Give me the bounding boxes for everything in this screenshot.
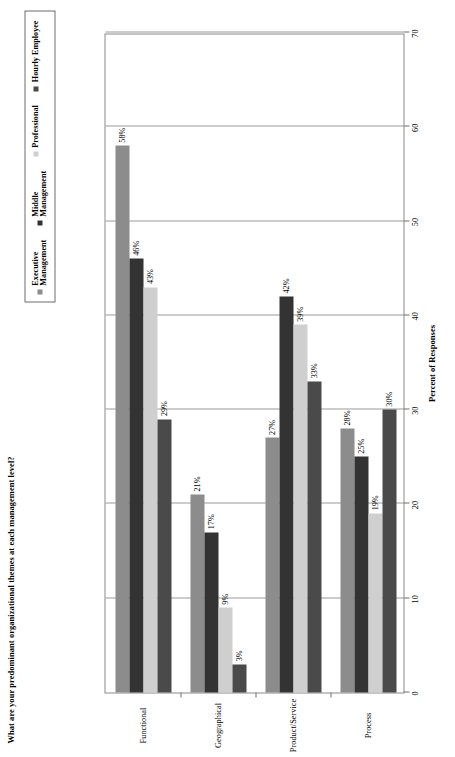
bar-value-label: 9%: [220, 593, 229, 607]
category-tick: [330, 692, 331, 697]
bar: [368, 513, 382, 692]
bar-row: 3%: [232, 34, 246, 692]
bar-row: 46%: [129, 34, 143, 692]
bar-row: 29%: [157, 34, 171, 692]
bar-row: 17%: [204, 34, 218, 692]
gridline: [105, 31, 403, 32]
legend-swatch-icon: [33, 151, 38, 156]
bar: [218, 607, 232, 692]
axis-tick-label: 20: [410, 500, 419, 508]
bar: [354, 456, 368, 692]
bar: [265, 437, 279, 692]
legend-item-label: Hourly Employee: [31, 20, 39, 82]
bar-row: 9%: [218, 34, 232, 692]
bar-value-label: 3%: [234, 650, 243, 664]
bar: [157, 419, 171, 692]
legend-item-label: Executive Management: [31, 239, 48, 285]
category-tick: [255, 692, 256, 697]
bar-value-label: 43%: [145, 269, 154, 287]
chart-page: What are your predominant organizational…: [0, 0, 455, 757]
bar-row: 39%: [293, 34, 307, 692]
bar-row: 58%: [115, 34, 129, 692]
bar-value-label: 27%: [267, 419, 276, 437]
bar: [190, 494, 204, 692]
bar: [204, 532, 218, 692]
x-axis-title: Percent of Responses: [426, 33, 436, 693]
bar: [382, 409, 396, 692]
axis-tick-label: 60: [410, 123, 419, 131]
bar: [232, 664, 246, 692]
category-tick: [180, 692, 181, 697]
bar-row: 25%: [354, 34, 368, 692]
legend-swatch-icon: [37, 289, 42, 294]
bar: [143, 287, 157, 692]
bar: [293, 324, 307, 692]
axis-tick-label: 30: [410, 406, 419, 414]
bar-group: 21%17%9%3%Geographical: [180, 34, 255, 692]
category-axis-label: Functional: [138, 696, 147, 754]
bar-value-label: 25%: [356, 438, 365, 456]
legend-item-label: Professional: [31, 105, 39, 148]
axis-tick-label: 70: [410, 29, 419, 37]
bar-value-label: 46%: [131, 240, 140, 258]
legend-swatch-icon: [33, 86, 38, 91]
bar-value-label: 29%: [159, 401, 168, 419]
chart-legend: Executive ManagementMiddle ManagementPro…: [24, 10, 55, 302]
bar-row: 19%: [368, 34, 382, 692]
bar-row: 30%: [382, 34, 396, 692]
bar-row: 42%: [279, 34, 293, 692]
axis-tick-label: 10: [410, 595, 419, 603]
chart-figure: What are your predominant organizational…: [0, 0, 455, 757]
bar-value-label: 28%: [342, 410, 351, 428]
plot-area: 58%46%43%29%Functional21%17%9%3%Geograph…: [104, 33, 404, 693]
bar-group: 28%25%19%30%Process: [330, 34, 405, 692]
bar-value-label: 21%: [192, 476, 201, 494]
bar-group: 27%42%39%33%Product/Service: [255, 34, 330, 692]
bar-row: 27%: [265, 34, 279, 692]
bar: [129, 258, 143, 692]
bar: [307, 381, 321, 692]
legend-item: Hourly Employee: [31, 20, 39, 91]
bar-row: 33%: [307, 34, 321, 692]
axis-tick: [403, 31, 409, 32]
axis-tick-label: 50: [410, 217, 419, 225]
bar-row: 43%: [143, 34, 157, 692]
legend-item: Professional: [31, 105, 39, 157]
plot-frame: 58%46%43%29%Functional21%17%9%3%Geograph…: [104, 33, 404, 693]
bar-value-label: 58%: [117, 127, 126, 145]
bar-value-label: 42%: [281, 278, 290, 296]
legend-item: Executive Management: [31, 239, 48, 294]
legend-item: Middle Management: [31, 170, 48, 225]
category-axis-label: Geographical: [213, 696, 222, 754]
bar: [279, 296, 293, 692]
axis-tick-label: 40: [410, 312, 419, 320]
axis-tick-label: 0: [410, 691, 419, 695]
bar: [115, 145, 129, 692]
bar: [340, 428, 354, 692]
bar-value-label: 17%: [206, 514, 215, 532]
category-axis-label: Product/Service: [288, 696, 297, 754]
bar-row: 28%: [340, 34, 354, 692]
bar-value-label: 39%: [295, 306, 304, 324]
bar-group: 58%46%43%29%Functional: [105, 34, 180, 692]
bar-value-label: 19%: [370, 495, 379, 513]
legend-item-label: Middle Management: [31, 170, 48, 216]
legend-swatch-icon: [37, 220, 42, 225]
chart-title: What are your predominant organizational…: [6, 0, 15, 757]
bar-row: 21%: [190, 34, 204, 692]
bar-value-label: 33%: [309, 363, 318, 381]
category-axis-label: Process: [363, 696, 372, 754]
bar-value-label: 30%: [384, 391, 393, 409]
